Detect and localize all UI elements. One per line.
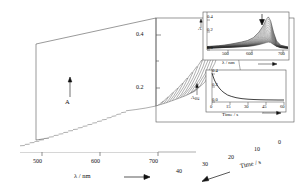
inset-bot-xtick-label-45: 45 — [262, 105, 267, 110]
main-z-arrow — [202, 172, 230, 181]
main-ztick-label-20: 20 — [228, 154, 234, 160]
main-x-arrow — [124, 175, 150, 180]
main-ytick-label-0.2: 0.2 — [136, 84, 144, 90]
inset-top-ytick-label-0.0: 0.0 — [207, 46, 213, 51]
main-xtick-label-600: 600 — [91, 158, 100, 164]
inset-bot-ytick-label-0.4: 0.4 — [212, 69, 218, 74]
inset-bot-ytick-label-0.2: 0.2 — [212, 83, 218, 88]
main-ztick-label-40: 40 — [176, 168, 182, 174]
main-ztick-label-30: 30 — [202, 161, 208, 167]
inset-top-xtick-label-600: 600 — [246, 52, 253, 57]
inset-bot-ytick-label-0.0: 0.0 — [212, 98, 218, 103]
inset-top-xaxis-label: λ / nm — [222, 60, 235, 65]
inset-bot-yaxis-label: A604 — [191, 95, 199, 101]
inset-bot-xtick-label-60: 60 — [280, 105, 285, 110]
inset-top-ytick-label-0.4: 0.4 — [207, 15, 213, 20]
inset-bot-yaxis-subscript: 604 — [195, 97, 200, 101]
main-y-ticks — [156, 35, 161, 114]
inset-bot-xtick-label-15: 15 — [226, 105, 231, 110]
inset-top-xtick-label-700: 700 — [278, 52, 285, 57]
main-ytick-label-0.4: 0.4 — [136, 31, 144, 37]
main-x-ticks — [20, 152, 196, 156]
inset-bot-xaxis-label: Time / s — [222, 112, 238, 117]
main-yaxis-label: A — [65, 99, 70, 106]
inset-top-xtick-label-500: 500 — [222, 52, 229, 57]
main-xtick-label-500: 500 — [33, 158, 42, 164]
main-xaxis-label: λ / nm — [74, 173, 91, 180]
inset-top-ytick-label-0.2: 0.2 — [207, 28, 213, 33]
inset-bot-xtick-label-30: 30 — [244, 105, 249, 110]
main-xtick-label-700: 700 — [149, 158, 158, 164]
main-ztick-label-10: 10 — [254, 146, 260, 152]
main-ztick-label-0: 0 — [278, 139, 281, 145]
inset-bot-xtick-label-0: 0 — [210, 105, 212, 110]
inset-top-yaxis-label: A — [198, 26, 202, 31]
figure-root: 0.4 0.2 A 500 600 700 λ / nm 0 10 20 30 … — [0, 0, 296, 194]
inset-top-x-arrow — [258, 62, 277, 65]
main-y-arrow — [68, 77, 72, 97]
